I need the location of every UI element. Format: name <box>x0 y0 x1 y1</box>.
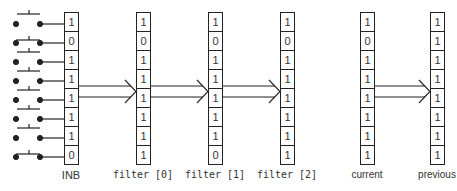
bit-cell: 0 <box>361 32 374 51</box>
bit-cell: 1 <box>361 108 374 127</box>
arrow-filter1-to-filter2 <box>223 80 280 103</box>
bit-cell: 0 <box>65 32 78 51</box>
switch-1 <box>13 36 64 46</box>
bit-cell: 1 <box>65 89 78 108</box>
arrows <box>79 80 430 103</box>
switch-4 <box>13 86 64 103</box>
bit-cell: 1 <box>209 108 222 127</box>
switch-7 <box>13 150 64 160</box>
register-label-filter-0: filter [0] <box>108 169 178 180</box>
bit-cell: 1 <box>281 13 294 32</box>
bit-cell: 1 <box>431 89 444 108</box>
bit-cell: 1 <box>137 89 150 108</box>
bit-cell: 1 <box>431 127 444 146</box>
bit-cell: 1 <box>361 13 374 32</box>
register-label-filter-1: filter [1] <box>180 169 250 180</box>
arrow-inb-to-filter0 <box>79 80 136 103</box>
bit-cell: 1 <box>431 13 444 32</box>
bit-cell: 0 <box>209 146 222 164</box>
bit-cell: 0 <box>281 32 294 51</box>
register-previous: 1 1 1 1 1 1 1 1 <box>430 12 445 165</box>
bit-cell: 1 <box>281 51 294 70</box>
bit-cell: 1 <box>137 146 150 164</box>
bit-cell: 1 <box>65 127 78 146</box>
switch-2 <box>13 48 64 65</box>
switch-5 <box>13 105 64 122</box>
bit-cell: 1 <box>65 13 78 32</box>
bit-cell: 1 <box>137 108 150 127</box>
bit-cell: 1 <box>137 127 150 146</box>
bit-cell: 1 <box>137 51 150 70</box>
bit-cell: 1 <box>65 51 78 70</box>
bit-cell: 1 <box>431 32 444 51</box>
bit-cell: 1 <box>281 127 294 146</box>
register-filter-0: 1 0 1 1 1 1 1 1 <box>136 12 151 165</box>
register-label-inb: INB <box>36 169 106 181</box>
switch-0 <box>13 10 64 27</box>
bit-cell: 1 <box>65 70 78 89</box>
register-label-current: current <box>332 169 402 180</box>
bit-cell: 1 <box>431 108 444 127</box>
bit-cell: 1 <box>209 89 222 108</box>
register-inb: 1 0 1 1 1 1 1 0 <box>64 12 79 165</box>
arrow-filter0-to-filter1 <box>151 80 208 103</box>
register-label-filter-2: filter [2] <box>252 169 322 180</box>
bit-cell: 0 <box>209 32 222 51</box>
bit-cell: 0 <box>137 32 150 51</box>
bit-cell: 1 <box>361 127 374 146</box>
bit-cell: 1 <box>209 127 222 146</box>
bit-cell: 1 <box>209 70 222 89</box>
switch-array <box>13 10 64 160</box>
bit-cell: 1 <box>431 146 444 164</box>
register-filter-2: 1 0 1 1 1 1 1 1 <box>280 12 295 165</box>
switch-3 <box>13 67 64 84</box>
register-label-previous: previous <box>402 169 457 180</box>
bit-cell: 1 <box>65 108 78 127</box>
bit-cell: 1 <box>281 108 294 127</box>
register-current: 1 0 1 1 1 1 1 1 <box>360 12 375 165</box>
bit-cell: 0 <box>65 146 78 164</box>
bit-cell: 1 <box>137 13 150 32</box>
bit-cell: 1 <box>281 70 294 89</box>
register-filter-1: 1 0 1 1 1 1 1 0 <box>208 12 223 165</box>
bit-cell: 1 <box>209 13 222 32</box>
bit-cell: 1 <box>431 70 444 89</box>
bit-cell: 1 <box>361 146 374 164</box>
switch-6 <box>13 124 64 141</box>
arrow-current-to-previous <box>375 80 430 103</box>
bit-cell: 1 <box>361 51 374 70</box>
bit-cell: 1 <box>361 89 374 108</box>
bit-cell: 1 <box>281 89 294 108</box>
bit-cell: 1 <box>209 51 222 70</box>
bit-cell: 1 <box>281 146 294 164</box>
bit-cell: 1 <box>361 70 374 89</box>
bit-cell: 1 <box>137 70 150 89</box>
bit-cell: 1 <box>431 51 444 70</box>
